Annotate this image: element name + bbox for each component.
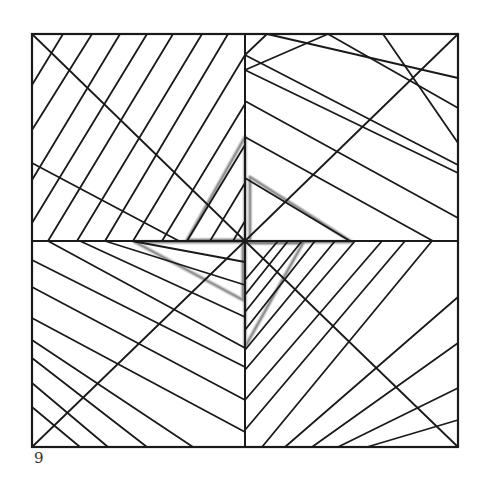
hatch-line [245, 34, 458, 241]
hatch-line [32, 260, 245, 367]
hatch-line [383, 34, 458, 143]
hatch-line [245, 34, 267, 55]
hatch-line [285, 297, 458, 447]
hatch-line [245, 241, 382, 400]
hatch-line [245, 101, 458, 218]
hatch-line [32, 34, 92, 130]
hatch-line [80, 241, 245, 317]
hatched-square-diagram [0, 0, 481, 495]
figure-number: 9 [34, 449, 44, 467]
hatch-line [245, 241, 288, 295]
hatch-line [267, 34, 458, 78]
hatch-line [32, 383, 108, 447]
hatch-line [32, 340, 193, 447]
hatch-line [32, 358, 147, 447]
hatch-line [48, 34, 173, 241]
hatch-line [245, 178, 350, 241]
hatch-line [105, 34, 228, 241]
hatch-line [245, 241, 315, 330]
hatch-line [77, 34, 202, 241]
hatch-line [245, 241, 302, 312]
hatch-line [245, 70, 458, 173]
hatch-line [245, 241, 405, 430]
